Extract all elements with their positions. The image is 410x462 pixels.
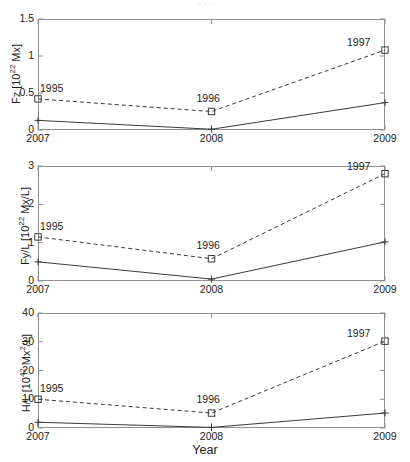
y-axis-label-fz-exp: 22 [8, 65, 17, 74]
x-tick-label-fyl-2: 2009 [363, 283, 407, 295]
marker-fz-solid-2 [382, 99, 389, 106]
panel-fz: Fz [1022 Mx] 00.511.52007200820091995199… [0, 0, 410, 150]
marker-fyl-solid-0 [35, 258, 42, 265]
annotation-fyl-1996: 1996 [197, 239, 220, 251]
x-tick-label-hl-1: 2008 [190, 430, 234, 442]
panel-hl: H/L [1042 Mx2/L] Year 010203040200720082… [0, 300, 410, 462]
y-tick-label-fz-2: 1 [0, 49, 34, 61]
annotation-hl-1996: 1996 [197, 393, 220, 405]
annotation-hl-1997: 1997 [347, 327, 370, 339]
panel-fyl: Fy/L [1022 Mx/L] 01232007200820091995199… [0, 150, 410, 300]
y-tick-label-fyl-3: 3 [0, 159, 34, 171]
x-tick-label-fz-2: 2009 [363, 132, 407, 144]
y-tick-label-fz-1: 0.5 [0, 86, 34, 98]
x-axis-label: Year [0, 443, 410, 457]
x-tick-label-fyl-0: 2007 [16, 283, 60, 295]
y-tick-label-hl-2: 20 [0, 364, 34, 376]
y-tick-label-hl-4: 40 [0, 306, 34, 318]
series-layer-fz [0, 0, 410, 150]
y-axis-label-hl-exp2: 2 [18, 346, 27, 350]
figure-canvas: · · · Fz [1022 Mx] 00.511.52007200820091… [0, 0, 410, 462]
marker-fz-solid-0 [35, 117, 42, 124]
x-tick-label-hl-0: 2007 [16, 430, 60, 442]
marker-fyl-dashed-2 [382, 170, 388, 176]
y-tick-label-fyl-2: 2 [0, 197, 34, 209]
y-tick-label-fz-3: 1.5 [0, 12, 34, 24]
x-tick-label-fz-1: 2008 [190, 132, 234, 144]
y-axis-label-fz: Fz [1022 Mx] [10, 19, 22, 129]
x-tick-label-hl-2: 2009 [363, 430, 407, 442]
marker-fyl-dashed-1 [208, 256, 214, 262]
y-axis-label-fyl: Fy/L [1022 Mx/L] [19, 164, 31, 289]
marker-fyl-solid-2 [382, 238, 389, 245]
annotation-fyl-1995: 1995 [40, 220, 63, 232]
y-tick-label-hl-3: 30 [0, 335, 34, 347]
annotation-hl-1995: 1995 [40, 382, 63, 394]
annotation-fz-1997: 1997 [347, 36, 370, 48]
annotation-fz-1996: 1996 [197, 92, 220, 104]
y-axis-label-fyl-exp: 22 [17, 217, 26, 226]
marker-hl-solid-0 [35, 419, 42, 426]
marker-fyl-solid-1 [208, 276, 215, 283]
marker-hl-solid-2 [382, 410, 389, 417]
x-tick-label-fz-0: 2007 [16, 132, 60, 144]
x-tick-label-fyl-1: 2008 [190, 283, 234, 295]
annotation-fz-1995: 1995 [40, 82, 63, 94]
marker-hl-dashed-2 [382, 338, 388, 344]
annotation-fyl-1997: 1997 [347, 160, 370, 172]
y-tick-label-fyl-1: 1 [0, 236, 34, 248]
y-tick-label-hl-1: 10 [0, 392, 34, 404]
